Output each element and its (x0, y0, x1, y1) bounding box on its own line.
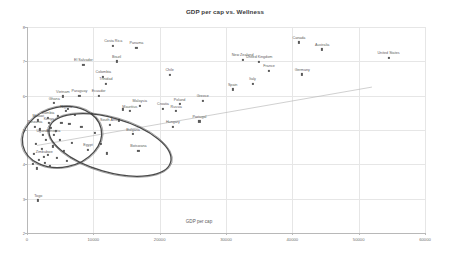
data-point-label: Italy (249, 77, 256, 81)
data-point[interactable] (172, 125, 174, 127)
data-point[interactable] (202, 100, 204, 102)
x-tick-label: 40000 (287, 237, 299, 242)
data-point[interactable] (122, 108, 124, 110)
data-point[interactable] (40, 148, 42, 150)
data-point-label: Australia (315, 43, 329, 47)
data-point-label: Ecuador (92, 89, 106, 93)
data-point[interactable] (105, 83, 107, 85)
data-point[interactable] (162, 108, 164, 110)
data-point-label: Greece (197, 94, 209, 98)
data-point[interactable] (48, 122, 50, 124)
data-point[interactable] (298, 41, 300, 43)
data-point[interactable] (66, 160, 68, 162)
data-point[interactable] (78, 95, 80, 97)
data-point[interactable] (38, 159, 40, 161)
y-axis-line (27, 27, 28, 233)
data-point[interactable] (74, 113, 76, 115)
data-point[interactable] (98, 95, 100, 97)
data-point[interactable] (106, 152, 108, 154)
data-point-label: Portugal (193, 115, 207, 119)
data-point[interactable] (109, 124, 111, 126)
data-point-label: United States (377, 51, 399, 55)
data-point-label: Tanzania (28, 120, 43, 124)
x-tick-label: 20000 (154, 237, 166, 242)
gridline-horizontal (27, 199, 425, 200)
data-point-label: Croatia (157, 102, 169, 106)
data-point[interactable] (63, 150, 65, 152)
x-tick-label: 50000 (353, 237, 365, 242)
data-point[interactable] (42, 134, 44, 136)
data-point[interactable] (67, 108, 69, 110)
data-point[interactable] (52, 134, 54, 136)
y-tick-label: 8 (19, 25, 25, 30)
y-tickmark (25, 27, 27, 28)
data-point[interactable] (44, 162, 46, 164)
data-point-label: Trinidad (99, 77, 112, 81)
data-point[interactable] (112, 45, 114, 47)
data-point[interactable] (169, 74, 171, 76)
data-point[interactable] (62, 95, 64, 97)
data-point[interactable] (251, 83, 253, 85)
x-tickmark (27, 233, 28, 235)
data-point[interactable] (268, 70, 270, 72)
data-point[interactable] (91, 112, 93, 114)
data-point[interactable] (258, 61, 260, 63)
x-tickmark (292, 233, 293, 235)
data-point[interactable] (46, 154, 48, 156)
data-point[interactable] (241, 59, 243, 61)
data-point[interactable] (37, 199, 39, 201)
x-tick-label: 10000 (88, 237, 100, 242)
data-point[interactable] (132, 133, 134, 135)
data-point[interactable] (301, 73, 303, 75)
data-point[interactable] (117, 119, 119, 121)
data-point[interactable] (36, 167, 38, 169)
data-point[interactable] (198, 120, 200, 122)
data-point[interactable] (139, 105, 141, 107)
data-point[interactable] (137, 150, 139, 152)
y-tick-label: 4 (19, 162, 25, 167)
data-point[interactable] (321, 48, 323, 50)
data-point-label: Bulgaria (126, 128, 140, 132)
data-point[interactable] (43, 156, 45, 158)
gridline-vertical (425, 27, 426, 233)
data-point[interactable] (129, 110, 131, 112)
data-point[interactable] (50, 127, 52, 129)
data-point[interactable] (53, 102, 55, 104)
data-point[interactable] (87, 149, 89, 151)
data-point[interactable] (115, 60, 117, 62)
data-point[interactable] (56, 157, 58, 159)
gridline-horizontal (27, 164, 425, 165)
y-tick-label: 7 (19, 59, 25, 64)
y-tickmark (25, 233, 27, 234)
data-point[interactable] (45, 139, 47, 141)
data-point[interactable] (57, 115, 59, 117)
data-point[interactable] (175, 110, 177, 112)
data-point[interactable] (80, 126, 82, 128)
data-point[interactable] (65, 110, 67, 112)
data-point[interactable] (60, 122, 62, 124)
data-point-label: Poland (174, 98, 185, 102)
y-tick-label: 5 (19, 128, 25, 133)
data-point[interactable] (232, 88, 234, 90)
data-point[interactable] (387, 57, 389, 59)
data-point[interactable] (34, 125, 36, 127)
data-point[interactable] (52, 145, 54, 147)
data-point[interactable] (68, 123, 70, 125)
data-point[interactable] (135, 47, 137, 49)
data-point-label: United Kingdom (246, 55, 272, 59)
gridline-horizontal (27, 27, 425, 28)
data-point[interactable] (33, 153, 35, 155)
data-point[interactable] (55, 130, 57, 132)
data-point[interactable] (100, 143, 102, 145)
data-point[interactable] (71, 142, 73, 144)
data-point[interactable] (94, 132, 96, 134)
data-point[interactable] (59, 139, 61, 141)
data-point-label: Kenya (44, 117, 54, 121)
data-point-label: Canada (292, 36, 305, 40)
data-point[interactable] (39, 128, 41, 130)
data-point[interactable] (82, 64, 84, 66)
data-point[interactable] (32, 163, 34, 165)
plot-area: 01000020000300004000050000600008765432 C… (27, 27, 425, 233)
data-point[interactable] (35, 143, 37, 145)
data-point[interactable] (48, 165, 50, 167)
